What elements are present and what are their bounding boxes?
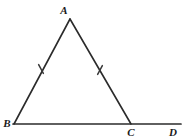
segment-ac — [70, 19, 131, 124]
vertex-label-d: D — [168, 126, 177, 138]
figure-canvas: A B C D — [0, 0, 188, 138]
vertex-label-a: A — [59, 4, 67, 16]
vertex-label-c: C — [127, 126, 135, 138]
geometry-figure: A B C D — [0, 0, 188, 138]
vertex-label-b: B — [2, 117, 10, 129]
